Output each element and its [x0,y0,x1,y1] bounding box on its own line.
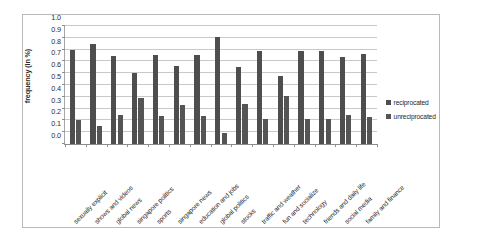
bar-group [252,26,273,144]
bar [367,117,372,144]
bar-group [127,26,148,144]
bar [222,133,227,144]
chart-legend: reciprocatedunreciprocated [386,99,440,127]
bar [340,57,345,144]
bar [278,76,283,144]
legend-label: reciprocated [394,99,429,106]
chart-figure: frequency (in %) 1.00.90.80.70.60.50.40.… [22,14,440,228]
x-axis-category-label: sports [155,208,172,225]
y-axis-title: frequency (in %) [21,23,35,129]
bar [159,116,164,144]
y-axis-tick-label: 0.0 [51,131,61,140]
bar [153,55,158,144]
y-axis-tick-label: 0.9 [51,24,61,33]
bar [242,104,247,144]
bar [284,96,289,144]
bar-group [169,26,190,144]
bar-groups [65,26,377,144]
x-axis-category-label: stocks [239,207,257,225]
bar [326,119,331,144]
bar [361,54,366,144]
y-axis-tick-label: 0.7 [51,48,61,57]
y-axis-tick-label: 0.4 [51,83,61,92]
bar [257,51,262,144]
bar [132,73,137,144]
bar-group [190,26,211,144]
bar [319,51,324,144]
bar [138,98,143,144]
y-axis-tick-label: 0.5 [51,72,61,81]
bar [180,105,185,144]
bar [174,66,179,144]
y-axis-tick-label: 0.3 [51,95,61,104]
y-axis-tick-label: 0.2 [51,107,61,116]
bar [111,56,116,145]
plot-area: 1.00.90.80.70.60.50.40.30.20.10.0 [64,26,377,145]
legend-item: reciprocated [386,99,440,106]
y-axis-tick-label: 0.6 [51,60,61,69]
y-axis-tick-label: 0.8 [51,36,61,45]
bar-group [294,26,315,144]
y-axis-tick-label: 1.0 [51,13,61,22]
legend-color-swatch [386,100,391,105]
bar [346,115,351,145]
legend-label: unreciprocated [394,113,436,120]
bar-group [335,26,356,144]
x-axis-category-label: family and finance [364,184,405,225]
bar [201,116,206,144]
y-axis-tick-label: 0.1 [51,119,61,128]
bar [305,119,310,144]
bar [215,37,220,144]
bar [118,115,123,144]
bar-group [231,26,252,144]
legend-color-swatch [386,114,391,119]
bar [97,126,102,144]
bar [90,44,95,144]
bar-group [86,26,107,144]
bar [70,50,75,144]
bar-group [211,26,232,144]
bar [236,67,241,144]
bar [298,51,303,144]
legend-item: unreciprocated [386,113,440,120]
bar-group [148,26,169,144]
bar-group [107,26,128,144]
bar-group [273,26,294,144]
bar [76,120,81,144]
bar [194,55,199,144]
x-axis-tick-mark [377,144,378,147]
bar-group [65,26,86,144]
bar-group [315,26,336,144]
x-axis-category-labels: sexually explicitshows and videosglobal … [64,147,377,225]
bar [263,119,268,144]
bar-group [356,26,377,144]
